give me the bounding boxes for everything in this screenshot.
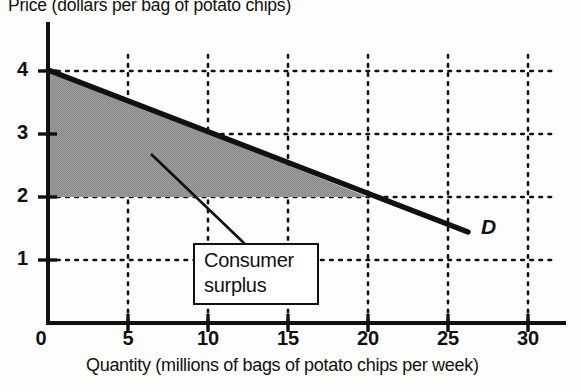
consumer-surplus-callout: Consumer surplus: [193, 243, 319, 305]
x-tick-label-20: 20: [348, 327, 388, 350]
callout-line-2: surplus: [204, 273, 317, 298]
x-tick-label-15: 15: [268, 327, 308, 350]
demand-curve-label: D: [481, 215, 496, 239]
x-tick-label-5: 5: [108, 327, 148, 350]
x-tick-label-30: 30: [508, 327, 548, 350]
x-axis-title: Quantity (millions of bags of potato chi…: [86, 355, 479, 376]
x-tick-label-25: 25: [428, 327, 468, 350]
callout-line-1: Consumer: [204, 248, 317, 273]
y-tick-label-1: 1: [2, 247, 28, 270]
y-tick-label-2: 2: [2, 184, 28, 207]
y-tick-label-4: 4: [2, 58, 28, 81]
x-tick-label-10: 10: [188, 327, 228, 350]
origin-label: 0: [21, 327, 61, 350]
chart-figure: Price (dollars per bag of potato chips): [0, 0, 581, 392]
y-tick-label-3: 3: [2, 121, 28, 144]
